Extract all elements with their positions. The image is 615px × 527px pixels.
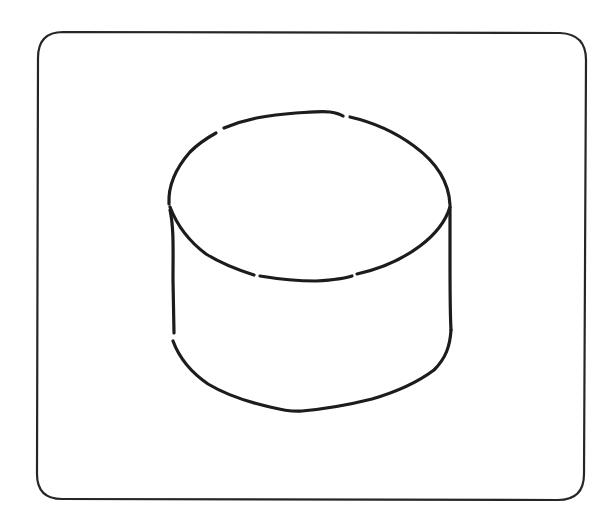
top-ellipse-back-segment-3 [350, 117, 450, 205]
cylinder-right-side [450, 207, 451, 330]
top-ellipse-back-segment-2 [224, 112, 343, 128]
top-ellipse-front-segment-1 [170, 207, 254, 275]
rounded-frame [37, 32, 586, 500]
top-ellipse-front-segment-2 [260, 276, 352, 281]
cylinder-bottom [173, 330, 451, 411]
top-ellipse-front-segment-3 [357, 207, 450, 274]
cylinder-left-side [170, 210, 174, 333]
diagram-canvas: Hand-drawn cylinder inside a rounded squ… [0, 0, 615, 527]
cylinder-sides [170, 207, 451, 333]
top-ellipse-back-segment-1 [169, 133, 216, 204]
cylinder-top-ellipse [169, 112, 450, 281]
cylinder-illustration [0, 0, 615, 527]
cylinder-bottom-curve [173, 330, 451, 411]
